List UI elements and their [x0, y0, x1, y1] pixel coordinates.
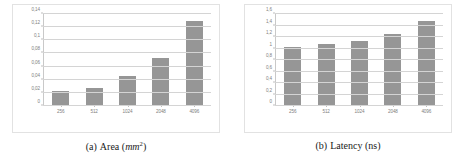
- y-axis-tick-label: 0,14: [31, 7, 40, 12]
- bar: [119, 76, 136, 105]
- bar: [418, 21, 435, 105]
- y-axis-tick-label: 0,1: [34, 33, 40, 38]
- y-tick-mark: [41, 26, 43, 27]
- caption-name: Latency: [330, 140, 362, 151]
- gridline: [43, 13, 211, 14]
- y-tick-mark: [41, 52, 43, 53]
- x-axis-tick-label: 2048: [156, 109, 166, 114]
- x-axis-tick-label: 1024: [355, 109, 365, 114]
- gridline: [43, 66, 211, 67]
- y-tick-mark: [273, 47, 275, 48]
- subfigure-latency: 256512102420484096 00,20,40,60,811,21,41…: [232, 0, 464, 166]
- caption-unit: ns: [368, 140, 377, 151]
- figure-row: 256512102420484096 00,020,040,060,080,10…: [0, 0, 464, 166]
- gridline: [275, 13, 443, 14]
- y-axis-tick-label: 1,2: [266, 30, 272, 35]
- bar: [351, 41, 368, 105]
- gridline: [275, 94, 443, 95]
- x-axis-tick-label: 256: [57, 109, 64, 114]
- y-axis-tick-label: 1: [270, 41, 272, 46]
- bar: [86, 88, 103, 105]
- y-axis-tick-label: 1,4: [266, 18, 272, 23]
- y-axis-tick-label: 0: [270, 99, 272, 104]
- bar: [52, 91, 69, 105]
- bar: [318, 44, 335, 105]
- chart-frame-area: 256512102420484096 00,020,040,060,080,10…: [12, 4, 220, 133]
- y-tick-mark: [273, 59, 275, 60]
- x-axis-tick-label: 1024: [123, 109, 133, 114]
- y-axis-tick-label: 0,2: [266, 87, 272, 92]
- y-tick-mark: [41, 91, 43, 92]
- y-axis-tick-label: 1,6: [266, 7, 272, 12]
- caption-label: (b): [316, 140, 328, 151]
- y-tick-mark: [41, 105, 43, 106]
- y-axis-tick-label: 0,08: [31, 46, 40, 51]
- gridline: [275, 48, 443, 49]
- y-tick-mark: [41, 78, 43, 79]
- x-axis-tick-label: 256: [289, 109, 296, 114]
- gridline: [43, 52, 211, 53]
- x-axis-tick-label: 2048: [388, 109, 398, 114]
- chart-frame-latency: 256512102420484096 00,20,40,60,811,21,41…: [244, 4, 452, 133]
- y-tick-mark: [273, 24, 275, 25]
- gridline: [43, 92, 211, 93]
- y-tick-mark: [273, 36, 275, 37]
- subfigure-caption-area: (a)Area (mm2): [86, 140, 146, 152]
- x-axis-tick-label: 4096: [421, 109, 431, 114]
- caption-unit: mm: [125, 141, 139, 152]
- y-axis-tick-label: 0,04: [31, 72, 40, 77]
- gridline: [43, 39, 211, 40]
- caption-label: (a): [86, 141, 97, 152]
- gridline: [43, 105, 211, 106]
- plot-area-latency: 256512102420484096 00,20,40,60,811,21,41…: [275, 14, 443, 106]
- y-axis-tick-label: 0,12: [31, 20, 40, 25]
- y-axis-tick-label: 0,6: [266, 64, 272, 69]
- gridline: [275, 82, 443, 83]
- gridline: [275, 71, 443, 72]
- x-axis-tick-label: 512: [322, 109, 329, 114]
- y-axis-tick-label: 0,4: [266, 76, 272, 81]
- y-tick-mark: [41, 65, 43, 66]
- y-tick-mark: [41, 13, 43, 14]
- y-tick-mark: [273, 70, 275, 71]
- gridline: [43, 79, 211, 80]
- caption-unit-exponent: 2: [140, 140, 143, 147]
- y-tick-mark: [273, 105, 275, 106]
- y-tick-mark: [41, 39, 43, 40]
- y-tick-mark: [273, 93, 275, 94]
- gridline: [275, 59, 443, 60]
- y-axis-tick-label: 0,8: [266, 53, 272, 58]
- y-axis-tick-label: 0,02: [31, 85, 40, 90]
- gridline: [275, 36, 443, 37]
- subfigure-caption-latency: (b)Latency (ns): [316, 140, 381, 151]
- y-tick-mark: [273, 13, 275, 14]
- bar: [284, 47, 301, 105]
- y-axis-tick-label: 0: [38, 99, 40, 104]
- gridline: [275, 105, 443, 106]
- gridline: [275, 25, 443, 26]
- x-axis-tick-label: 4096: [189, 109, 199, 114]
- gridline: [43, 26, 211, 27]
- x-axis-tick-label: 512: [90, 109, 97, 114]
- subfigure-area: 256512102420484096 00,020,040,060,080,10…: [0, 0, 232, 166]
- plot-area-area: 256512102420484096 00,020,040,060,080,10…: [43, 14, 211, 106]
- y-axis-tick-label: 0,06: [31, 59, 40, 64]
- caption-name: Area: [100, 141, 119, 152]
- y-tick-mark: [273, 82, 275, 83]
